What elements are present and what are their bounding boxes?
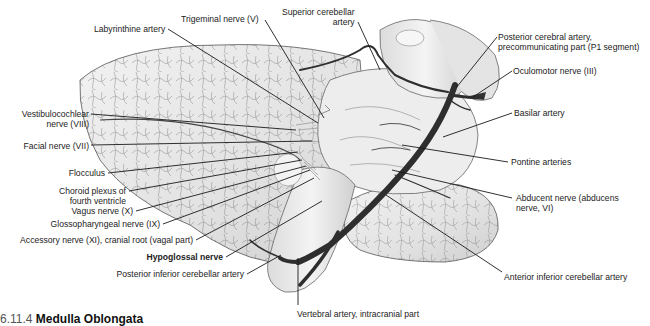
label-text-line: Superior cerebellar xyxy=(282,7,355,17)
olive xyxy=(274,154,302,186)
label-text-line: fourth ventricle xyxy=(4,196,126,206)
label-text-line: Hypoglossal nerve xyxy=(4,252,223,262)
label-text-line: Labyrinthine artery xyxy=(94,24,165,34)
label-text-line: Oculomotor nerve (III) xyxy=(513,66,597,76)
label-flocculus: Flocculus xyxy=(4,168,105,178)
label-oculomotor-nerve: Oculomotor nerve (III) xyxy=(513,66,597,76)
label-facial-nerve: Facial nerve (VII) xyxy=(4,141,89,151)
label-text-line: precommunicating part (P1 segment) xyxy=(498,42,639,52)
label-anterior-inferior-cerebellar-artery: Anterior inferior cerebellar artery xyxy=(504,272,627,282)
cerebellum-right-hemisphere xyxy=(344,182,498,262)
label-text-line: Vagus nerve (X) xyxy=(4,206,133,216)
label-pontine-arteries: Pontine arteries xyxy=(511,157,571,167)
label-text-line: artery xyxy=(282,17,355,27)
label-basilar-artery: Basilar artery xyxy=(514,108,565,118)
label-text-line: Basilar artery xyxy=(514,108,565,118)
leader-superior-cerebellar-artery xyxy=(358,22,380,70)
label-hypoglossal-nerve: Hypoglossal nerve xyxy=(4,252,223,262)
label-abducent-nerve: Abducent nerve (abducensnerve, VI) xyxy=(516,193,619,213)
label-text-line: Abducent nerve (abducens xyxy=(516,193,619,203)
label-text-line: Trigeminal nerve (V) xyxy=(181,14,259,24)
label-vestibulocochlear-nerve: Vestibulocochlearnerve (VIII) xyxy=(4,109,89,129)
label-text-line: Choroid plexus of xyxy=(4,186,126,196)
label-text-line: Flocculus xyxy=(4,168,105,178)
label-choroid-plexus: Choroid plexus offourth ventricle xyxy=(4,186,126,206)
label-accessory-nerve: Accessory nerve (XI), cranial root (vaga… xyxy=(4,235,193,245)
label-text-line: Posterior cerebral artery, xyxy=(498,32,639,42)
label-vagus-nerve: Vagus nerve (X) xyxy=(4,206,133,216)
caption-title: Medulla Oblongata xyxy=(36,312,143,326)
figure-caption: 6.11.4 Medulla Oblongata xyxy=(0,312,650,326)
label-labyrinthine-artery: Labyrinthine artery xyxy=(94,24,165,34)
label-text-line: Accessory nerve (XI), cranial root (vaga… xyxy=(4,235,193,245)
label-trigeminal-nerve: Trigeminal nerve (V) xyxy=(181,14,259,24)
label-text-line: nerve (VIII) xyxy=(4,119,89,129)
label-text-line: Facial nerve (VII) xyxy=(4,141,89,151)
label-text-line: Anterior inferior cerebellar artery xyxy=(504,272,627,282)
caption-number: 6.11.4 xyxy=(0,312,32,326)
label-posterior-inferior-cerebellar-artery: Posterior inferior cerebellar artery xyxy=(4,269,244,279)
label-text-line: Posterior inferior cerebellar artery xyxy=(4,269,244,279)
label-text-line: Vestibulocochlear xyxy=(4,109,89,119)
label-superior-cerebellar-artery: Superior cerebellarartery xyxy=(282,7,355,27)
label-text-line: Glossopharyngeal nerve (IX) xyxy=(4,219,160,229)
label-posterior-cerebral-artery: Posterior cerebral artery,precommunicati… xyxy=(498,32,639,52)
label-text-line: nerve, VI) xyxy=(516,203,619,213)
label-text-line: Pontine arteries xyxy=(511,157,571,167)
label-glossopharyngeal-nerve: Glossopharyngeal nerve (IX) xyxy=(4,219,160,229)
